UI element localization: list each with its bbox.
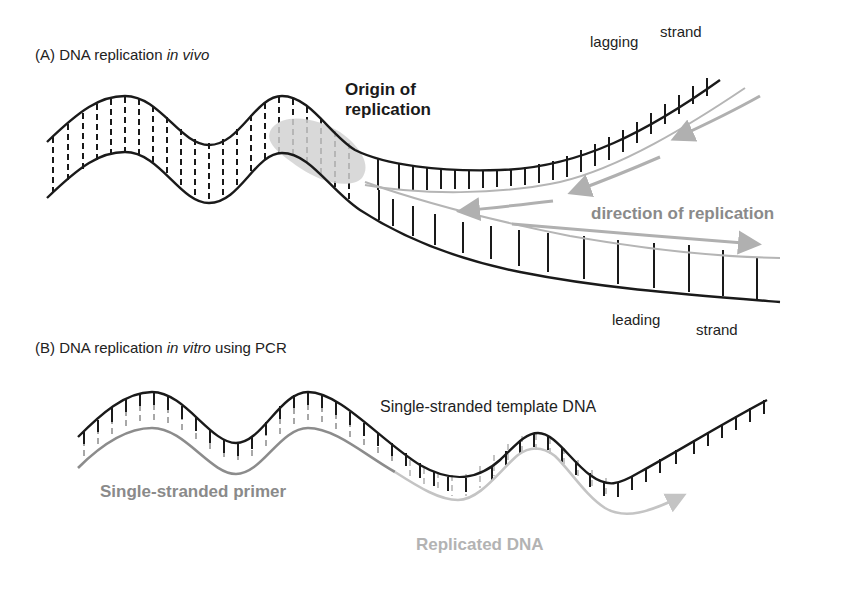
panel-a-title-text: (A) DNA replication <box>35 46 167 63</box>
origin-of-replication-label: Origin of replication <box>345 80 431 119</box>
origin-label-line2: replication <box>345 100 431 120</box>
panel-b-title-italic: in vitro <box>167 339 211 356</box>
template-dna-label: Single-stranded template DNA <box>380 399 596 415</box>
replicated-dna-label: Replicated DNA <box>416 536 544 553</box>
lagging-strand-label: strand <box>660 24 702 39</box>
origin-label-line1: Origin of <box>345 80 431 100</box>
leading-strand-label: strand <box>696 322 738 337</box>
origin-of-replication-highlight <box>269 118 365 183</box>
leading-label: leading <box>612 312 660 327</box>
primer-strand <box>78 428 395 474</box>
panel-b-title-text: (B) DNA replication <box>35 339 167 356</box>
panel-b-title: (B) DNA replication in vitro using PCR <box>35 340 287 355</box>
panel-a-title-italic: in vivo <box>167 46 210 63</box>
replicated-strand <box>395 448 682 513</box>
lagging-arrow-3 <box>462 201 553 211</box>
primer-label: Single-stranded primer <box>100 483 286 500</box>
dna-replication-figure: (A) DNA replication in vivo Origin of re… <box>0 0 856 593</box>
panel-a-title: (A) DNA replication in vivo <box>35 47 209 62</box>
lagging-label: lagging <box>590 34 638 49</box>
panel-b-title-suffix: using PCR <box>211 339 287 356</box>
direction-of-replication-label: direction of replication <box>591 205 774 222</box>
